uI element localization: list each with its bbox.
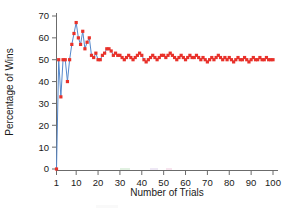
data-point-marker bbox=[64, 58, 67, 61]
data-point-marker bbox=[70, 43, 73, 46]
data-point-marker bbox=[92, 56, 95, 59]
x-tick-label: 10 bbox=[71, 177, 82, 188]
chart-figure: 010203040506070 Percentage of Wins 11020… bbox=[0, 0, 286, 216]
data-point-marker bbox=[55, 167, 58, 170]
data-point-marker bbox=[94, 52, 97, 55]
data-point-marker bbox=[88, 36, 91, 39]
data-point-marker bbox=[99, 58, 102, 61]
data-point-marker bbox=[72, 32, 75, 35]
data-point-marker bbox=[271, 58, 274, 61]
x-tick-label: 100 bbox=[265, 177, 281, 188]
percentage-of-wins-line-chart: 010203040506070 Percentage of Wins 11020… bbox=[0, 0, 286, 216]
y-tick-label: 40 bbox=[38, 76, 49, 87]
data-point-marker bbox=[75, 21, 78, 24]
x-tick-label: 90 bbox=[246, 177, 257, 188]
data-point-marker bbox=[81, 30, 84, 33]
data-point-marker bbox=[66, 80, 69, 83]
y-tick-label: 10 bbox=[38, 142, 49, 153]
y-tick-label: 50 bbox=[38, 54, 49, 65]
x-axis-title: Number of Trials bbox=[130, 187, 203, 198]
x-tick-label: 20 bbox=[93, 177, 104, 188]
x-tick-label: 80 bbox=[224, 177, 235, 188]
x-tick-label: 1 bbox=[54, 177, 59, 188]
y-tick-label: 70 bbox=[38, 10, 49, 21]
x-tick-label: 30 bbox=[115, 177, 126, 188]
x-tick-label: 70 bbox=[202, 177, 213, 188]
data-point-marker bbox=[59, 95, 62, 98]
data-point-marker bbox=[140, 54, 143, 57]
data-point-marker bbox=[68, 58, 71, 61]
data-point-marker bbox=[110, 49, 113, 52]
data-point-marker bbox=[57, 58, 60, 61]
y-tick-label: 20 bbox=[38, 120, 49, 131]
data-point-marker bbox=[83, 47, 86, 50]
data-point-marker bbox=[103, 52, 106, 55]
data-point-marker bbox=[79, 43, 82, 46]
y-axis-title: Percentage of Wins bbox=[4, 48, 15, 135]
y-tick-label: 30 bbox=[38, 98, 49, 109]
y-tick-label: 0 bbox=[44, 163, 49, 174]
y-tick-label: 60 bbox=[38, 32, 49, 43]
data-point-marker bbox=[86, 41, 89, 44]
data-point-marker bbox=[77, 36, 80, 39]
